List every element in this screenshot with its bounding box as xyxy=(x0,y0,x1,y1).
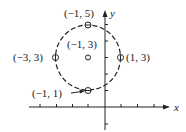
point-center xyxy=(86,55,91,60)
y-axis-label: y xyxy=(109,7,115,19)
point-bottom xyxy=(85,88,91,94)
x-axis-arrow-icon xyxy=(163,105,170,110)
y-axis-arrow-icon xyxy=(103,10,108,17)
x-axis-label: x xyxy=(173,101,179,113)
label-top-point: (−1, 5) xyxy=(64,7,94,20)
coordinate-plane: x y xyxy=(0,0,186,132)
label-center-point: (−1, 3) xyxy=(67,38,97,51)
point-right xyxy=(118,55,124,61)
label-bottom-point: (−1, 1) xyxy=(32,87,62,100)
label-right-point: (1, 3) xyxy=(126,51,150,64)
label-left-point: (−3, 3) xyxy=(13,51,43,64)
point-left xyxy=(53,55,59,61)
point-top xyxy=(85,22,91,28)
